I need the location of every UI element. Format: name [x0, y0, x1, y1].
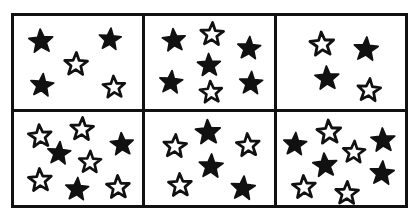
outline-star-icon — [63, 51, 89, 77]
filled-star-icon — [160, 27, 187, 54]
grid-cell-1[interactable] — [14, 16, 142, 109]
outline-star-icon — [235, 132, 262, 159]
filled-star-icon — [194, 118, 222, 146]
outline-star-icon — [27, 167, 53, 193]
filled-star-icon — [197, 152, 224, 179]
filled-star-icon — [157, 68, 184, 95]
filled-star-icon — [28, 71, 55, 98]
outline-star-icon — [308, 30, 336, 58]
outline-star-icon — [341, 139, 366, 164]
grid-cell-4[interactable] — [14, 112, 142, 205]
filled-star-icon — [45, 139, 72, 166]
grid-cell-5[interactable] — [145, 112, 273, 205]
outline-star-icon — [290, 174, 316, 200]
filled-star-icon — [281, 130, 308, 157]
outline-star-icon — [161, 133, 188, 160]
outline-star-icon — [198, 79, 224, 105]
filled-star-icon — [229, 174, 257, 202]
outline-star-icon — [77, 150, 102, 175]
grid-cell-3[interactable] — [277, 16, 405, 109]
outline-star-icon — [356, 77, 383, 104]
filled-star-icon — [313, 65, 340, 92]
outline-star-icon — [101, 74, 126, 99]
outline-star-icon — [334, 180, 360, 205]
filled-star-icon — [368, 159, 396, 187]
filled-star-icon — [108, 130, 135, 157]
outline-star-icon — [199, 21, 225, 47]
filled-star-icon — [369, 126, 396, 153]
filled-star-icon — [64, 176, 91, 203]
star-grid — [11, 13, 408, 208]
filled-star-icon — [353, 35, 381, 63]
grid-cell-2[interactable] — [145, 16, 273, 109]
filled-star-icon — [197, 52, 223, 78]
filled-star-icon — [27, 27, 55, 55]
filled-star-icon — [237, 70, 263, 96]
outline-star-icon — [105, 174, 131, 200]
outline-star-icon — [167, 172, 193, 198]
filled-star-icon — [236, 34, 263, 61]
grid-cell-6[interactable] — [277, 112, 405, 205]
outline-star-icon — [69, 116, 95, 142]
outline-star-icon — [315, 118, 343, 146]
star-grid-worksheet — [0, 0, 420, 221]
filled-star-icon — [97, 26, 123, 52]
